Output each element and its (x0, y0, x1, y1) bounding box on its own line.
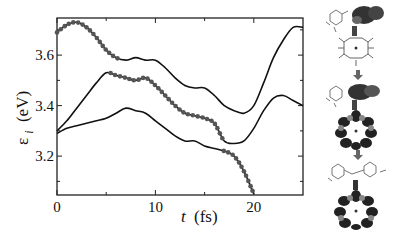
data-marker (58, 27, 63, 32)
data-marker (218, 131, 223, 136)
data-marker (71, 20, 76, 25)
data-marker (80, 22, 85, 27)
data-marker (67, 22, 72, 27)
data-marker (111, 54, 116, 59)
data-marker (118, 74, 123, 79)
data-marker (131, 78, 136, 83)
data-marker (230, 152, 235, 157)
data-marker (159, 90, 164, 95)
data-marker (115, 56, 120, 61)
orbital-image-3 (324, 158, 392, 230)
data-marker (246, 179, 251, 184)
data-marker (108, 71, 113, 76)
data-marker (95, 36, 100, 41)
data-marker (215, 126, 220, 131)
data-marker (103, 47, 108, 52)
data-marker (248, 184, 253, 189)
data-marker (127, 77, 132, 82)
data-marker (76, 20, 81, 25)
data-marker (88, 28, 93, 33)
data-marker (234, 156, 239, 161)
orbital-image-2 (324, 80, 392, 150)
data-marker (55, 30, 60, 35)
data-marker (91, 32, 96, 37)
data-marker (136, 77, 141, 82)
data-marker (141, 76, 146, 81)
data-marker (173, 104, 178, 109)
data-marker (149, 79, 154, 84)
data-marker (153, 83, 158, 88)
data-marker (190, 113, 195, 118)
data-marker (177, 107, 182, 112)
data-marker (100, 44, 105, 49)
data-marker (123, 75, 128, 80)
data-marker (186, 112, 191, 117)
data-marker (156, 86, 161, 91)
data-marker (98, 40, 103, 45)
energy-level-plot: 010203.23.43.6 t (fs) ε i (eV) (0, 0, 320, 238)
data-marker (244, 173, 249, 178)
data-marker (239, 164, 244, 169)
data-marker (107, 51, 112, 56)
data-marker (145, 76, 150, 81)
y-tick-label: 3.4 (35, 98, 54, 114)
y-tick-label: 3.2 (35, 148, 54, 164)
data-marker (113, 73, 118, 78)
data-marker (170, 100, 175, 105)
x-tick-label: 20 (246, 199, 261, 215)
data-marker (213, 122, 218, 127)
orbital-image-1 (324, 2, 392, 70)
data-marker (84, 25, 89, 30)
x-tick-label: 0 (53, 199, 61, 215)
data-marker (226, 150, 231, 155)
orbital-inset-panels (324, 0, 396, 238)
data-marker (220, 136, 225, 141)
data-marker (205, 117, 210, 122)
data-marker (163, 93, 168, 98)
data-marker (200, 115, 205, 120)
data-marker (62, 24, 67, 29)
x-axis-label: t (fs) (181, 207, 218, 226)
data-marker (209, 118, 214, 123)
y-tick-label: 3.6 (35, 47, 54, 63)
data-marker (237, 160, 242, 165)
x-tick-label: 10 (148, 199, 163, 215)
y-axis-label: ε i (eV) (13, 91, 37, 145)
data-marker (242, 169, 247, 174)
data-marker (221, 149, 226, 154)
data-marker (166, 97, 171, 102)
data-marker (250, 188, 255, 193)
down-arrow-icon (353, 70, 363, 80)
data-marker (181, 110, 186, 115)
data-marker (195, 114, 200, 119)
tick-labels: 010203.23.43.6 (35, 47, 261, 215)
